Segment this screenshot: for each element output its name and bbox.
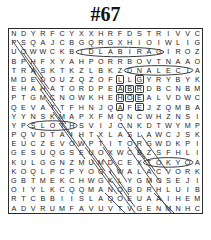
grid-cell[interactable]: G <box>135 176 145 185</box>
grid-cell[interactable]: O <box>48 75 58 84</box>
grid-cell[interactable]: C <box>28 139 38 148</box>
grid-cell[interactable]: K <box>192 167 202 176</box>
grid-cell[interactable]: P <box>9 130 19 139</box>
grid-cell[interactable]: K <box>106 66 116 75</box>
grid-cell[interactable]: U <box>96 204 106 213</box>
grid-cell[interactable]: C <box>164 130 174 139</box>
grid-cell[interactable]: M <box>192 194 202 203</box>
grid-cell[interactable]: J <box>144 103 154 112</box>
grid-cell[interactable]: A <box>9 204 19 213</box>
grid-cell[interactable]: T <box>144 158 154 167</box>
grid-cell[interactable]: A <box>115 103 125 112</box>
grid-cell[interactable]: V <box>86 121 96 130</box>
grid-cell[interactable]: B <box>48 194 58 203</box>
grid-cell[interactable]: O <box>19 47 29 56</box>
grid-cell[interactable]: L <box>28 158 38 167</box>
grid-cell[interactable]: T <box>86 130 96 139</box>
grid-cell[interactable]: E <box>106 93 116 102</box>
grid-cell[interactable]: R <box>154 29 164 38</box>
grid-cell[interactable]: I <box>135 38 145 47</box>
grid-cell[interactable]: R <box>106 29 116 38</box>
grid-cell[interactable]: T <box>19 93 29 102</box>
grid-cell[interactable]: L <box>86 194 96 203</box>
grid-cell[interactable]: I <box>183 185 193 194</box>
grid-cell[interactable]: P <box>48 167 58 176</box>
grid-cell[interactable]: N <box>173 84 183 93</box>
grid-cell[interactable]: B <box>125 185 135 194</box>
grid-cell[interactable]: Y <box>9 121 19 130</box>
grid-cell[interactable]: B <box>67 47 77 56</box>
grid-cell[interactable]: B <box>183 84 193 93</box>
grid-cell[interactable]: U <box>19 139 29 148</box>
grid-cell[interactable]: T <box>9 66 19 75</box>
grid-cell[interactable]: P <box>183 139 193 148</box>
grid-cell[interactable]: Q <box>28 38 38 47</box>
grid-cell[interactable]: O <box>125 139 135 148</box>
grid-cell[interactable]: I <box>67 130 77 139</box>
grid-cell[interactable]: S <box>135 29 145 38</box>
grid-cell[interactable]: A <box>48 84 58 93</box>
grid-cell[interactable]: D <box>38 130 48 139</box>
grid-cell[interactable]: E <box>106 84 116 93</box>
grid-cell[interactable]: H <box>115 93 125 102</box>
grid-cell[interactable]: Q <box>115 185 125 194</box>
grid-cell[interactable]: W <box>38 47 48 56</box>
grid-cell[interactable]: P <box>86 57 96 66</box>
grid-cell[interactable]: Q <box>106 194 116 203</box>
grid-cell[interactable]: R <box>154 75 164 84</box>
grid-cell[interactable]: H <box>173 148 183 157</box>
grid-cell[interactable]: Q <box>106 103 116 112</box>
grid-cell[interactable]: K <box>9 167 19 176</box>
grid-cell[interactable]: L <box>115 176 125 185</box>
grid-cell[interactable]: B <box>38 194 48 203</box>
grid-cell[interactable]: C <box>135 112 145 121</box>
grid-cell[interactable]: D <box>38 75 48 84</box>
grid-cell[interactable]: M <box>38 176 48 185</box>
grid-cell[interactable]: J <box>96 103 106 112</box>
grid-cell[interactable]: U <box>173 185 183 194</box>
grid-cell[interactable]: B <box>183 103 193 112</box>
grid-cell[interactable]: K <box>106 176 116 185</box>
grid-cell[interactable]: T <box>28 176 38 185</box>
grid-cell[interactable]: L <box>86 66 96 75</box>
grid-cell[interactable]: V <box>183 29 193 38</box>
grid-cell[interactable]: R <box>106 57 116 66</box>
grid-cell[interactable]: K <box>86 93 96 102</box>
grid-cell[interactable]: S <box>77 121 87 130</box>
grid-cell[interactable]: A <box>144 167 154 176</box>
grid-cell[interactable]: T <box>96 139 106 148</box>
grid-cell[interactable]: A <box>125 167 135 176</box>
grid-cell[interactable]: B <box>115 47 125 56</box>
grid-cell[interactable]: K <box>67 66 77 75</box>
grid-cell[interactable]: U <box>38 148 48 157</box>
grid-cell[interactable]: Q <box>164 103 174 112</box>
grid-cell[interactable]: S <box>77 194 87 203</box>
grid-cell[interactable]: C <box>115 158 125 167</box>
grid-cell[interactable]: F <box>67 103 77 112</box>
grid-cell[interactable]: C <box>48 47 58 56</box>
grid-cell[interactable]: X <box>77 29 87 38</box>
grid-cell[interactable]: K <box>192 75 202 84</box>
grid-cell[interactable]: G <box>96 167 106 176</box>
grid-cell[interactable]: H <box>19 84 29 93</box>
grid-cell[interactable]: P <box>67 167 77 176</box>
grid-cell[interactable]: Q <box>19 130 29 139</box>
grid-cell[interactable]: A <box>77 204 87 213</box>
grid-cell[interactable]: Q <box>115 112 125 121</box>
grid-cell[interactable]: I <box>125 47 135 56</box>
grid-cell[interactable]: F <box>38 57 48 66</box>
grid-cell[interactable]: D <box>86 84 96 93</box>
grid-cell[interactable]: B <box>192 185 202 194</box>
grid-cell[interactable]: P <box>86 139 96 148</box>
grid-cell[interactable]: W <box>183 93 193 102</box>
grid-cell[interactable]: R <box>77 84 87 93</box>
grid-cell[interactable]: Y <box>183 75 193 84</box>
grid-cell[interactable]: O <box>48 121 58 130</box>
grid-cell[interactable]: I <box>192 176 202 185</box>
grid-cell[interactable]: V <box>106 204 116 213</box>
grid-cell[interactable]: X <box>48 57 58 66</box>
grid-cell[interactable]: H <box>77 103 87 112</box>
grid-cell[interactable]: F <box>164 148 174 157</box>
grid-cell[interactable]: T <box>57 121 67 130</box>
grid-cell[interactable]: L <box>154 66 164 75</box>
